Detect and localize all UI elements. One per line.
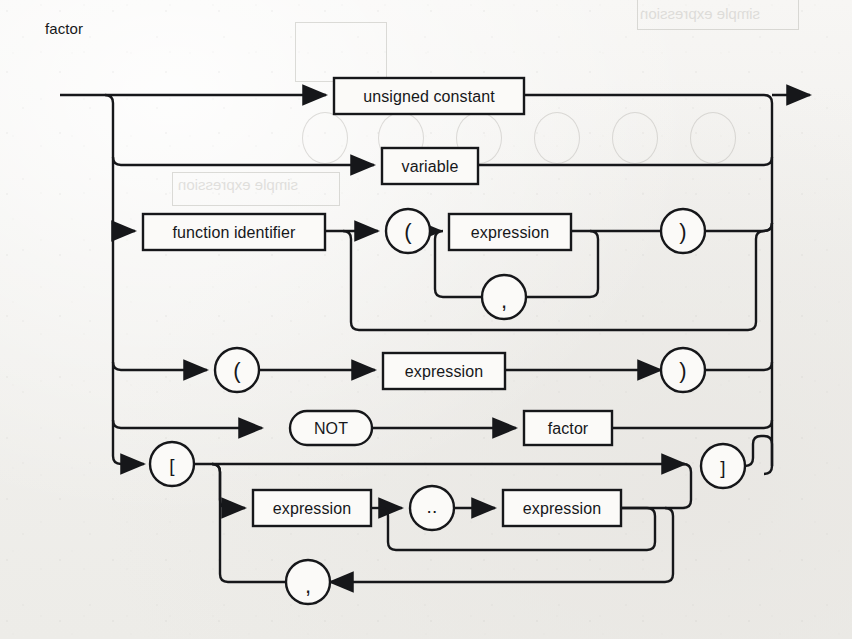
node-rbracket-label: ]: [720, 457, 725, 478]
node-variable: variable: [382, 148, 478, 184]
node-function-identifier: function identifier: [143, 214, 325, 250]
node-lbracket: [: [150, 442, 194, 486]
node-expression-arg: expression: [449, 214, 571, 250]
node-unsigned-constant: unsigned constant: [334, 78, 524, 114]
node-function-identifier-label: function identifier: [173, 224, 296, 241]
node-rparen-group-label: ): [679, 358, 686, 383]
node-expression-low-label: expression: [273, 500, 351, 517]
node-not-label: NOT: [314, 420, 348, 437]
node-unsigned-constant-label: unsigned constant: [363, 88, 495, 105]
railroad-diagram-canvas: unsigned constant variable function iden…: [0, 0, 852, 639]
path-not-factor-row: [113, 420, 772, 428]
node-factor-label: factor: [548, 420, 589, 437]
node-expression-group: expression: [383, 353, 505, 389]
node-rbracket: ]: [701, 444, 745, 488]
syntax-diagram-page: simple expression simple expression fact…: [0, 0, 852, 639]
node-range-dots: ..: [410, 486, 454, 530]
node-range-dots-label: ..: [427, 496, 438, 517]
node-comma-arg: ,: [482, 275, 526, 319]
node-comma-set: ,: [286, 560, 330, 604]
node-lparen-group-label: (: [233, 358, 241, 383]
node-comma-set-label: ,: [305, 573, 311, 598]
node-expression-low: expression: [253, 490, 371, 526]
node-variable-label: variable: [402, 158, 459, 175]
node-lparen-group: (: [215, 348, 259, 392]
node-rparen-call: ): [661, 209, 705, 253]
node-expression-group-label: expression: [405, 363, 483, 380]
node-factor: factor: [524, 411, 612, 445]
node-expression-high-label: expression: [523, 500, 601, 517]
node-expression-high: expression: [503, 490, 621, 526]
node-rparen-group: ): [661, 348, 705, 392]
node-expression-arg-label: expression: [471, 224, 549, 241]
node-lparen-call: (: [386, 209, 430, 253]
node-rparen-call-label: ): [679, 219, 686, 244]
node-not: NOT: [290, 411, 372, 445]
node-comma-arg-label: ,: [501, 288, 507, 313]
node-lbracket-label: [: [169, 455, 175, 476]
node-lparen-call-label: (: [404, 219, 412, 244]
